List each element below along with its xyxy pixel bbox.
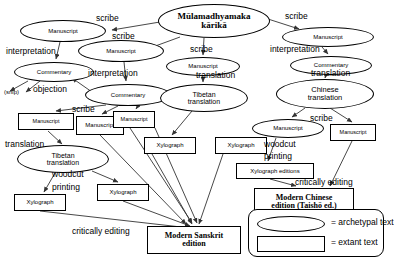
edge-label-interpretation2: interpretation — [88, 68, 138, 78]
node-ms_l1: Manuscript — [20, 20, 106, 42]
node-xylo_c3: Xylograph — [215, 137, 267, 154]
legend-archetypal-label: = archetypal text — [331, 217, 394, 227]
edge-label-snip: (snip) — [4, 89, 19, 95]
edge-label-scribe4: scribe — [190, 44, 213, 54]
legend: = archetypal text = extant text — [248, 209, 384, 257]
edge-label-printing1: printing — [52, 182, 80, 192]
node-tib_c: Tibetantranslation — [160, 84, 248, 112]
edge-label-interpretation3: interpretation — [270, 44, 320, 54]
edge-label-objection: objection — [33, 84, 67, 94]
node-ms_r3: Manuscript — [330, 124, 376, 141]
node-xylo_c1: Xylograph — [97, 184, 149, 201]
edge-label-critically2: critically editing — [295, 177, 353, 187]
edge-label-woodcut1: woodcut — [52, 169, 84, 179]
node-ms_cb2: Manuscript — [113, 111, 155, 128]
edge-label-scribe5: scribe — [285, 11, 308, 21]
node-xylo_l: Xylograph — [14, 194, 66, 211]
legend-extant-label: = extant text — [331, 237, 378, 247]
edge-label-printing2: printing — [264, 151, 292, 161]
edge-label-woodcut2: woodcut — [264, 139, 296, 149]
node-comm_c1: Commentary — [85, 84, 171, 106]
edge-label-critically1: critically editing — [72, 226, 130, 236]
node-xylo_c2: Xylograph — [144, 137, 196, 154]
edge-label-interpretation1: interpretation — [6, 46, 56, 56]
node-chin: Chinesetranslation — [276, 79, 374, 109]
legend-ellipse-icon — [257, 216, 325, 232]
edge-label-scribe1: scribe — [96, 13, 119, 23]
edge-label-translation3: translation — [311, 68, 350, 78]
node-skt_ed: Modern Sanskritedition — [147, 226, 241, 254]
edge-label-scribe2: scribe — [112, 31, 135, 41]
edge-label-scribe6: scribe — [310, 113, 333, 123]
edge-label-scribe3: scribe — [72, 104, 95, 114]
edge-label-translation2: translation — [196, 70, 235, 80]
node-ms_c1: Manuscript — [78, 40, 164, 62]
edge-label-translation1: translation — [5, 139, 44, 149]
node-ms_lb: Manuscript — [18, 113, 74, 130]
legend-rect-icon — [257, 236, 325, 252]
node-root: Mūlamadhyamakakārikā — [158, 4, 270, 38]
node-comm_l1: Commentary — [14, 62, 94, 82]
